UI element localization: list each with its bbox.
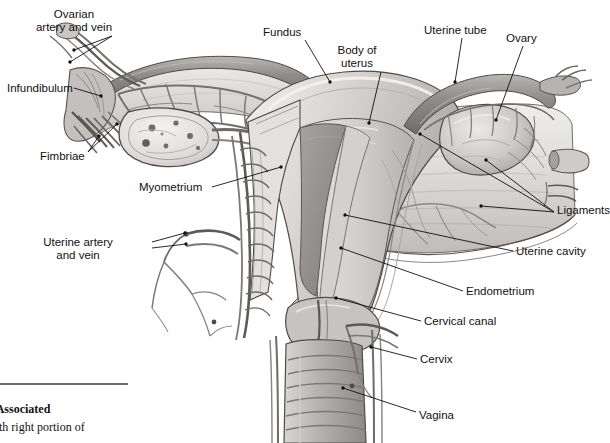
leader-endpoint-uterine-artery-and-vein [183,231,186,234]
label-infundibulum: Infundibulum [7,82,73,95]
caption-figure-number: 20-8 [0,387,50,402]
caption-body-line: ew with right portion of [0,420,85,435]
label-endometrium: Endometrium [466,285,534,298]
leader-endpoint-uterine-cavity [343,213,346,216]
label-uterine-artery-and-vein: Uterine artery and vein [18,236,138,262]
leader-endpoint-infundibulum [99,94,102,97]
label-fimbriae: Fimbriae [40,150,85,163]
leader-endpoint-cervical-canal [334,296,337,299]
leader-endpoint-ovarian-artery-and-vein [72,48,75,51]
label-ligaments: Ligaments [557,204,610,217]
leader-endpoint-uterine-artery-and-vein [184,242,187,245]
label-ovary: Ovary [506,32,537,45]
leader-endpoint-ligaments [484,158,487,161]
label-body-of-uterus: Body of uterus [297,44,417,70]
leader-endpoint-uterine-tube [453,80,456,83]
leader-endpoint-myometrium [279,165,282,168]
label-fundus: Fundus [263,26,301,39]
leader-endpoint-fimbriae [97,134,100,137]
illustration-artwork [50,23,592,443]
label-vagina: Vagina [419,409,454,422]
leader-endpoint-fimbriae [115,122,118,125]
leader-endpoint-endometrium [339,246,342,249]
label-uterine-tube: Uterine tube [424,24,487,37]
leader-endpoint-ligaments [418,132,421,135]
caption-body: ew with right portion of [0,420,85,435]
label-ovarian-artery-and-vein: Ovarian artery and vein [14,8,134,34]
leader-endpoint-ovarian-artery-and-vein [68,60,71,63]
leader-line-uterine-artery-and-vein [152,244,186,248]
leader-endpoint-body-of-uterus [367,121,370,124]
leader-endpoint-ovary [494,118,497,121]
leader-endpoint-cervix [369,345,372,348]
leader-endpoint-vagina [341,386,344,389]
caption-title: and Associated [0,402,50,417]
vagina [270,324,398,443]
leader-endpoint-fundus [328,80,331,83]
label-cervical-canal: Cervical canal [424,315,496,328]
label-cervix: Cervix [420,353,453,366]
leader-line-cervix [371,347,417,359]
label-uterine-cavity: Uterine cavity [516,245,586,258]
leader-line-uterine-tube [455,38,462,82]
label-myometrium: Myometrium [139,181,202,194]
caption-heading: 20-8 and Associated [0,387,50,416]
leader-endpoint-ligaments [479,204,482,207]
caption-rule [0,383,128,385]
